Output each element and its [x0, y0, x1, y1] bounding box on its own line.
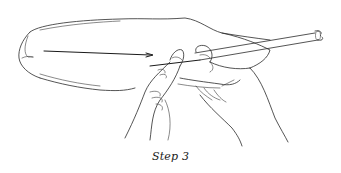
needle-drawing	[44, 51, 200, 66]
step-illustration	[0, 0, 341, 150]
straw-tube-drawing	[195, 31, 323, 60]
step-caption: Step 3	[0, 150, 341, 163]
step-figure: Step 3	[0, 0, 341, 173]
